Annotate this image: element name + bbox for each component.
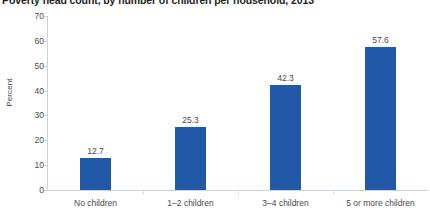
y-axis-tick-label: 20 xyxy=(18,136,44,145)
y-axis-tick-label: 40 xyxy=(18,86,44,95)
y-axis-tick-label: 10 xyxy=(18,161,44,170)
bar xyxy=(270,85,301,190)
y-axis-tick-labels: 010203040506070 xyxy=(14,0,44,223)
y-axis-tick-label: 50 xyxy=(18,61,44,70)
bar xyxy=(80,158,111,190)
bar-value-label: 42.3 xyxy=(256,73,316,83)
y-axis-tick-label: 0 xyxy=(18,186,44,195)
x-axis-tick-label: 1–2 children xyxy=(136,198,246,208)
y-axis-tick-mark xyxy=(44,115,48,116)
x-axis-tick-label: 3–4 children xyxy=(231,198,341,208)
x-axis-tick-label: 5 or more children xyxy=(326,198,430,208)
x-axis-tick-mark xyxy=(143,191,144,195)
y-axis-tick-mark xyxy=(44,16,48,17)
y-axis-title: Percent xyxy=(5,63,14,123)
chart-title: Poverty head count, by number of childre… xyxy=(2,0,430,6)
x-axis-tick-mark xyxy=(333,191,334,195)
bar-value-label: 25.3 xyxy=(161,115,221,125)
y-axis-tick-mark xyxy=(44,165,48,166)
bar xyxy=(175,127,206,190)
x-axis-tick-label: No children xyxy=(41,198,151,208)
y-axis-tick-mark xyxy=(44,140,48,141)
y-axis-tick-label: 70 xyxy=(18,12,44,21)
bar xyxy=(365,47,396,190)
y-axis-tick-label: 30 xyxy=(18,111,44,120)
y-axis-tick-mark xyxy=(44,41,48,42)
x-axis-tick-mark xyxy=(238,191,239,195)
bar-value-label: 12.7 xyxy=(66,146,126,156)
y-axis-tick-mark xyxy=(44,66,48,67)
bar-chart-figure: Poverty head count, by number of childre… xyxy=(0,0,430,223)
bar-value-label: 57.6 xyxy=(351,35,411,45)
y-axis-tick-label: 60 xyxy=(18,36,44,45)
y-axis-tick-mark xyxy=(44,190,48,191)
y-axis-tick-mark xyxy=(44,91,48,92)
